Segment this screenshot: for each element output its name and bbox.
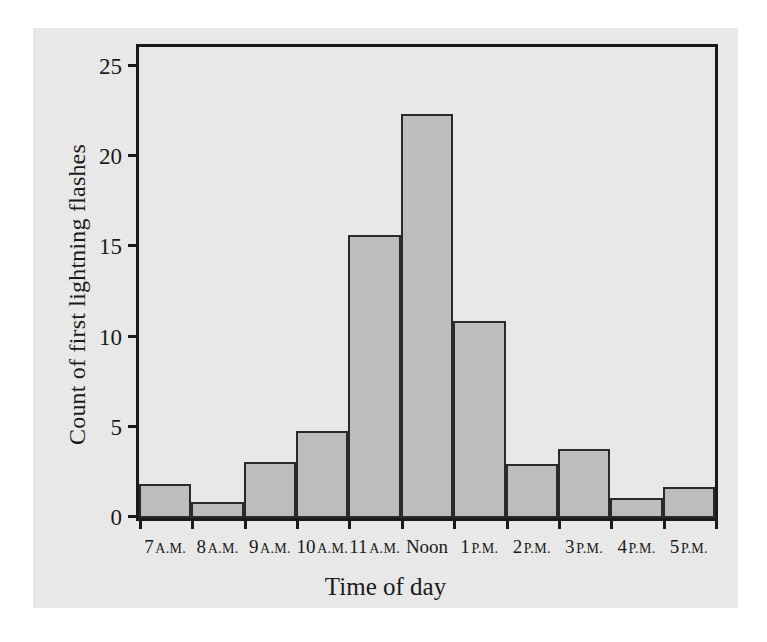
x-tick-mark <box>401 518 404 529</box>
x-axis-title: Time of day <box>33 573 738 601</box>
x-tick-mark <box>610 518 613 529</box>
x-tick-label: 9 A.M. <box>249 536 291 558</box>
y-tick-label: 25 <box>99 54 122 80</box>
x-tick-mark <box>453 518 456 529</box>
bar <box>139 484 191 518</box>
y-tick-label: 15 <box>99 234 122 260</box>
bar <box>558 449 610 518</box>
x-tick-mark <box>244 518 247 529</box>
bar <box>296 431 348 518</box>
y-axis-title: Count of first lightning flashes <box>64 85 91 505</box>
x-tick-label: 2 P.M. <box>513 536 551 558</box>
x-tick-mark <box>663 518 666 529</box>
y-tick-mark <box>128 244 139 247</box>
bar <box>663 487 715 518</box>
x-tick-label: 8 A.M. <box>197 536 239 558</box>
y-tick-mark <box>128 154 139 157</box>
y-tick-label: 10 <box>99 325 122 351</box>
bar <box>453 321 505 518</box>
bar <box>506 464 558 518</box>
x-tick-label: 5 P.M. <box>670 536 708 558</box>
x-tick-label: 7 A.M. <box>144 536 186 558</box>
plot-inner: 05101520257 A.M.8 A.M.9 A.M.10 A.M.11 A.… <box>139 47 715 518</box>
x-tick-label: 10 A.M. <box>297 536 348 558</box>
bar <box>401 114 453 518</box>
y-tick-mark <box>128 64 139 67</box>
x-tick-mark <box>715 518 718 529</box>
y-tick-label: 0 <box>111 505 123 531</box>
x-tick-mark <box>296 518 299 529</box>
bar <box>348 235 400 518</box>
plot-area: 05101520257 A.M.8 A.M.9 A.M.10 A.M.11 A.… <box>136 44 718 521</box>
x-tick-label: Noon <box>406 536 448 558</box>
x-tick-label: 11 A.M. <box>349 536 400 558</box>
y-tick-mark <box>128 425 139 428</box>
x-tick-label: 1 P.M. <box>460 536 498 558</box>
y-tick-mark <box>128 335 139 338</box>
x-tick-mark <box>506 518 509 529</box>
x-tick-label: 4 P.M. <box>617 536 655 558</box>
bar <box>191 502 243 518</box>
x-tick-mark <box>139 518 142 529</box>
bar <box>244 462 296 518</box>
x-tick-mark <box>558 518 561 529</box>
y-tick-mark <box>128 515 139 518</box>
x-tick-mark <box>191 518 194 529</box>
x-tick-mark <box>348 518 351 529</box>
x-tick-label: 3 P.M. <box>565 536 603 558</box>
y-tick-label: 20 <box>99 144 122 170</box>
y-tick-label: 5 <box>111 415 123 441</box>
bar <box>610 498 662 518</box>
chart-figure: Count of first lightning flashes 0510152… <box>33 28 738 608</box>
